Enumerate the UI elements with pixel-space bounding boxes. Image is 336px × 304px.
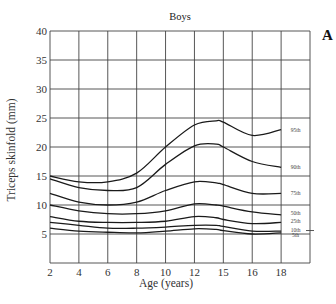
y-tick-label: 40 — [36, 25, 48, 37]
label-5th: 5th — [292, 232, 299, 238]
chart-title: Boys — [169, 11, 191, 22]
label-75th: 75th — [291, 190, 301, 196]
y-tick-label: 10 — [36, 199, 48, 211]
x-tick-label: 2 — [47, 266, 53, 278]
label-90th: 90th — [291, 164, 301, 170]
y-tick-label: 30 — [36, 83, 48, 95]
percentile-chart: 95th90th75th50th25th10th5th 246810121516… — [0, 0, 336, 304]
grid — [50, 31, 310, 263]
label-50th: 50th — [291, 210, 301, 216]
y-tick-label: 35 — [36, 54, 48, 66]
y-axis-title: Triceps skinfold (mm) — [5, 98, 18, 201]
x-tick-label: 16 — [247, 266, 259, 278]
label-95th: 95th — [291, 127, 301, 133]
x-tick-label: 6 — [105, 266, 111, 278]
panel-letter: A — [322, 27, 333, 43]
y-tick-label: 20 — [36, 141, 48, 153]
x-tick-label: 15 — [218, 266, 230, 278]
y-axis-tick-labels: 510152025303540 — [36, 25, 48, 240]
x-tick-label: 4 — [76, 266, 82, 278]
x-tick-label: 18 — [276, 266, 288, 278]
percentile-labels: 95th90th75th50th25th10th5th — [291, 127, 314, 239]
label-25th: 25th — [291, 218, 301, 224]
y-tick-label: 5 — [42, 228, 48, 240]
y-tick-label: 15 — [36, 170, 48, 182]
y-tick-label: 25 — [36, 112, 48, 124]
x-axis-title: Age (years) — [139, 277, 193, 290]
